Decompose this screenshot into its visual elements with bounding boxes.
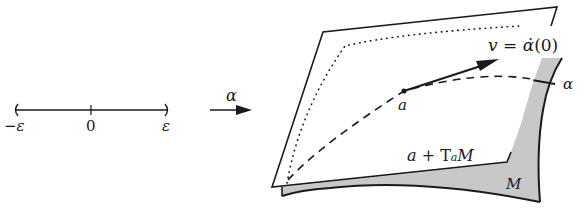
vector-label: v = α̇(0) bbox=[488, 35, 558, 55]
map-label: α bbox=[226, 86, 237, 105]
map-arrow: α bbox=[210, 86, 252, 115]
vector-label-lhs: v = bbox=[488, 35, 523, 55]
manifold-label: M bbox=[505, 175, 522, 193]
tp-label-a: a bbox=[407, 146, 417, 165]
map-arrow-head-icon bbox=[236, 105, 252, 115]
tp-label-T: T bbox=[440, 146, 451, 165]
interval-left-label: −ε bbox=[4, 117, 25, 135]
tangent-plane-label: a + TaM bbox=[407, 146, 474, 165]
tp-label-M: M bbox=[456, 146, 474, 165]
interval-right-label: ε bbox=[162, 117, 170, 135]
point-label: a bbox=[398, 96, 407, 114]
curve-label: α bbox=[563, 75, 573, 93]
manifold-tangent-diagram: −ε 0 ε α α a v = α̇(0) a + TaM M bbox=[0, 0, 585, 211]
vector-label-alpha-dot: α̇ bbox=[523, 35, 535, 55]
tp-label-plus: + bbox=[417, 146, 441, 165]
interval: −ε 0 ε bbox=[4, 104, 170, 135]
vector-label-arg: (0) bbox=[534, 35, 558, 55]
interval-center-label: 0 bbox=[86, 117, 96, 135]
